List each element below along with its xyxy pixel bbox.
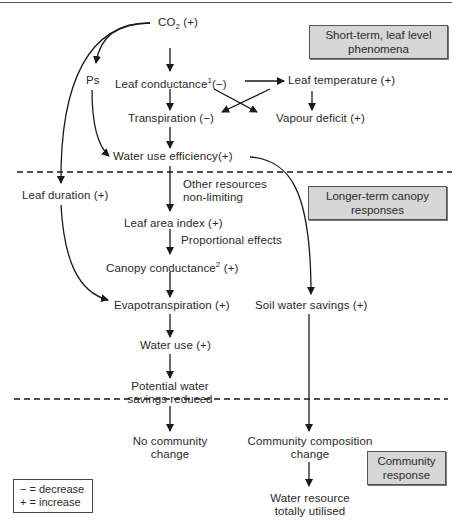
node-canopy-conductance: Canopy conductance2 (+) xyxy=(106,258,238,275)
node-soil-water-savings: Soil water savings (+) xyxy=(255,299,367,312)
node-evapotranspiration: Evapotranspiration (+) xyxy=(114,299,230,312)
legend-box: − = decrease + = increase xyxy=(13,479,93,513)
node-ps: Ps xyxy=(86,74,100,87)
node-leaf-conductance: Leaf conductance1(−) xyxy=(115,74,227,91)
node-water-use: Water use (+) xyxy=(140,339,211,352)
stage-box-community: Community response xyxy=(367,451,446,485)
node-leaf-temperature: Leaf temperature (+) xyxy=(288,74,395,87)
node-potential-water-savings: Potential water savings reduced xyxy=(120,380,220,406)
node-vapour-deficit: Vapour deficit (+) xyxy=(276,112,365,125)
stage-box-longer-term: Longer-term canopy responses xyxy=(308,186,447,220)
node-other-resources: Other resources non-limiting xyxy=(183,178,267,204)
node-no-community-change: No community change xyxy=(120,435,220,461)
node-leaf-area-index: Leaf area index (+) xyxy=(124,217,223,230)
stage-box-short-term: Short-term, leaf level phenomena xyxy=(309,25,448,59)
legend-increase: + = increase xyxy=(20,496,92,509)
node-leaf-duration: Leaf duration (+) xyxy=(22,189,108,202)
node-water-resource-utilised: Water resource totally utilised xyxy=(260,492,360,518)
node-co2: CO2 (+) xyxy=(158,16,198,33)
node-proportional-effects: Proportional effects xyxy=(181,234,282,247)
node-transpiration: Transpiration (−) xyxy=(128,112,214,125)
legend-decrease: − = decrease xyxy=(20,483,92,496)
node-water-use-efficiency: Water use efficiency(+) xyxy=(113,150,233,163)
node-community-composition-change: Community composition change xyxy=(240,435,380,461)
